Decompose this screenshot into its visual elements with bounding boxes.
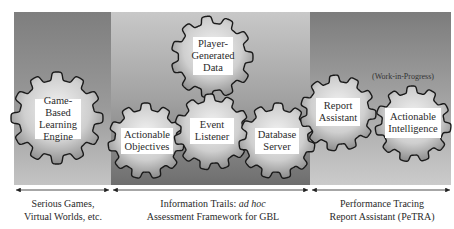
gear-label-event-listener: Event Listener [190,118,234,144]
work-in-progress-note: (Work-in-Progress) [372,72,434,81]
caption-middle-italic: ad hoc [239,198,266,209]
gear-label-game-based-learning-engine: Game-Based Learning Engine [35,99,81,139]
caption-left-line2: Virtual Worlds, etc. [8,211,118,224]
caption-left: Serious Games, Virtual Worlds, etc. [8,198,118,223]
gear-label-report-assistant: Report Assistant [316,98,360,126]
caption-middle-line2: Assessment Framework for GBL [118,211,308,224]
gear-label-actionable-intelligence: Actionable Intelligence [385,108,441,138]
caption-middle: Information Trails: ad hoc Assessment Fr… [118,198,308,223]
caption-right-line2: Report Assistant (PeTRA) [314,211,450,224]
gear-label-database-server: Database Server [255,128,299,154]
caption-middle-line1: Information Trails: ad hoc [118,198,308,211]
gear-label-actionable-objectives: Actionable Objectives [121,128,173,154]
caption-left-line1: Serious Games, [8,198,118,211]
caption-middle-prefix: Information Trails: [160,198,238,209]
gear-label-player-generated-data: Player-Generated Data [193,37,233,75]
caption-right: Performance Tracing Report Assistant (Pe… [314,198,450,223]
caption-right-line1: Performance Tracing [314,198,450,211]
